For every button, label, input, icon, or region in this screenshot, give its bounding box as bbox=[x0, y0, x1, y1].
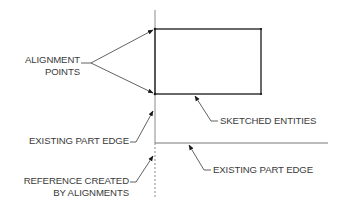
sketched-rectangle bbox=[155, 29, 261, 94]
alignment-point-top bbox=[154, 28, 157, 31]
label-existing-part-edge-right: EXISTING PART EDGE bbox=[213, 164, 313, 175]
leader-arrow-alignment-bottom bbox=[91, 63, 153, 93]
label-alignment-points-1: ALIGNMENT bbox=[25, 54, 80, 65]
label-sketched-entities: SKETCHED ENTITIES bbox=[220, 115, 316, 126]
leader-arrow-sketched bbox=[195, 96, 211, 121]
corner-point-top-right bbox=[260, 28, 262, 30]
sketch-alignment-diagram: ALIGNMENT POINTS EXISTING PART EDGE REFE… bbox=[0, 0, 341, 209]
leader-arrow-reference bbox=[136, 156, 153, 182]
leader-arrow-edge-left bbox=[136, 111, 153, 142]
label-reference-created-1: REFERENCE CREATED bbox=[24, 175, 129, 186]
label-alignment-points-2: POINTS bbox=[45, 66, 80, 77]
alignment-point-bottom bbox=[154, 93, 157, 96]
label-existing-part-edge-left: EXISTING PART EDGE bbox=[29, 135, 129, 146]
label-reference-created-2: BY ALIGNMENTS bbox=[53, 187, 129, 198]
leader-arrow-edge-right bbox=[189, 145, 204, 170]
corner-point-bottom-right bbox=[260, 93, 262, 95]
leader-arrow-alignment-top bbox=[91, 30, 153, 63]
